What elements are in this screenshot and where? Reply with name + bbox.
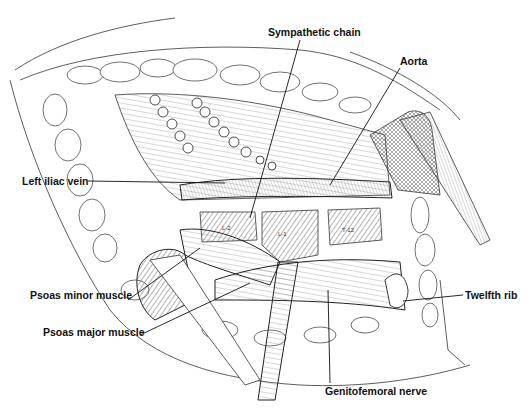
label-genitofemoral-nerve: Genitofemoral nerve — [325, 385, 427, 397]
vertebra-l1 — [262, 210, 318, 262]
label-aorta: Aorta — [400, 55, 427, 67]
vertebra-label-l1: L-1 — [278, 231, 287, 237]
anatomical-figure: L-2 L-1 T-12 Sympathetic chain Aorta Lef… — [0, 0, 532, 416]
illustration-drawing: L-2 L-1 T-12 — [0, 0, 532, 416]
label-left-iliac-vein: Left iliac vein — [22, 175, 89, 187]
label-psoas-major-muscle: Psoas major muscle — [43, 326, 145, 338]
aorta-vessel — [180, 178, 392, 200]
vertebra-label-l2: L-2 — [222, 225, 231, 231]
fat-lobules-right — [411, 197, 438, 327]
label-sympathetic-chain: Sympathetic chain — [268, 26, 361, 38]
label-twelfth-rib: Twelfth rib — [465, 289, 517, 301]
label-psoas-minor-muscle: Psoas minor muscle — [30, 289, 132, 301]
vertebra-t12 — [328, 208, 382, 245]
vertebra-label-t12: T-12 — [342, 227, 355, 233]
